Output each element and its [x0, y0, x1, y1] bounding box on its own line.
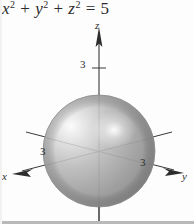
coordinate-scene: [0, 0, 194, 224]
z-axis-label: z: [95, 19, 99, 31]
x-axis-tick-label: 3: [40, 145, 46, 157]
y-axis-label: y: [182, 170, 187, 182]
sphere: [43, 95, 155, 207]
z-axis-tick-label: 3: [80, 58, 86, 70]
x-axis-arrowhead: [12, 169, 33, 177]
x-axis-label: x: [2, 170, 7, 182]
scan-left-edge-artifact: [0, 0, 2, 224]
sphere-figure: x2 + y2 + z2 = 5: [0, 0, 194, 224]
y-axis-tick-label: 3: [140, 156, 146, 168]
y-axis-arrowhead: [163, 168, 184, 176]
scan-bottom-edge-artifact: [0, 221, 194, 224]
sphere-rim-shading: [43, 95, 155, 207]
